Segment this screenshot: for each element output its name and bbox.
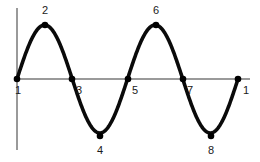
point-markers-group — [14, 22, 242, 140]
point-marker-3 — [97, 133, 104, 140]
point-label-1: 2 — [42, 5, 48, 16]
point-label-4: 5 — [132, 85, 138, 96]
point-label-0: 1 — [15, 85, 21, 96]
sine-wave-figure: 123456781 — [0, 0, 260, 162]
point-label-3: 4 — [97, 145, 103, 156]
point-marker-8 — [235, 76, 242, 83]
point-label-2: 3 — [76, 85, 82, 96]
point-marker-1 — [42, 22, 49, 29]
point-marker-5 — [153, 22, 160, 29]
point-label-7: 8 — [208, 145, 214, 156]
point-marker-6 — [180, 76, 187, 83]
wave-canvas — [0, 0, 260, 162]
point-label-6: 7 — [187, 85, 193, 96]
point-label-5: 6 — [153, 5, 159, 16]
point-label-8: 1 — [243, 85, 249, 96]
point-marker-7 — [208, 133, 215, 140]
point-marker-0 — [14, 76, 21, 83]
point-marker-4 — [125, 76, 132, 83]
point-marker-2 — [69, 76, 76, 83]
